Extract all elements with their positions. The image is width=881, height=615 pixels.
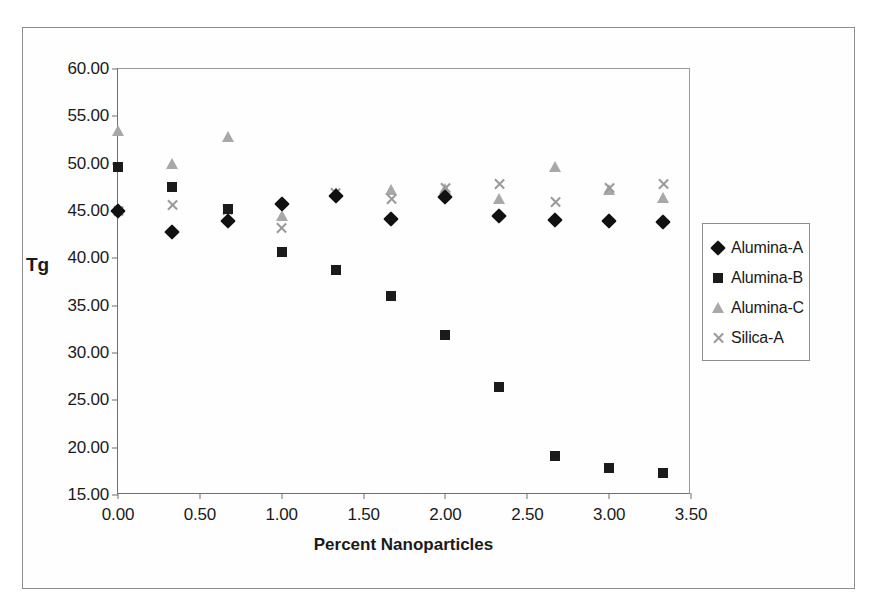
x-tick-mark xyxy=(118,493,119,499)
data-point xyxy=(658,468,668,478)
legend-item: Alumina-C xyxy=(710,293,809,323)
triangle-marker-icon xyxy=(712,302,724,313)
y-tick-label: 25.00 xyxy=(67,390,118,410)
data-point xyxy=(384,211,400,227)
data-point xyxy=(112,125,124,136)
square-marker-icon xyxy=(713,273,723,283)
legend-item: Alumina-B xyxy=(710,263,809,293)
legend-item: Silica-A xyxy=(710,323,809,353)
legend-label: Alumina-A xyxy=(731,239,803,257)
data-point xyxy=(493,178,506,191)
data-point xyxy=(493,193,505,204)
x-marker-icon xyxy=(712,332,725,345)
data-point xyxy=(331,265,341,275)
data-point xyxy=(604,463,614,473)
x-tick-mark xyxy=(691,493,692,499)
legend-marker xyxy=(710,240,726,256)
y-tick-label: 20.00 xyxy=(67,438,118,458)
x-tick-mark xyxy=(281,493,282,499)
y-tick-mark xyxy=(112,258,118,259)
legend: Alumina-AAlumina-BAlumina-CSilica-A xyxy=(702,223,810,361)
x-tick-mark xyxy=(527,493,528,499)
y-tick-mark xyxy=(112,400,118,401)
data-point xyxy=(166,199,179,212)
x-tick-mark xyxy=(199,493,200,499)
legend-marker xyxy=(710,270,726,286)
data-point xyxy=(164,224,180,240)
data-point xyxy=(494,382,504,392)
data-point xyxy=(222,131,234,142)
diamond-marker-icon xyxy=(710,240,726,256)
scatter-chart: Tg 15.0020.0025.0030.0035.0040.0045.0050… xyxy=(0,0,881,615)
y-tick-label: 60.00 xyxy=(67,59,118,79)
data-point xyxy=(113,162,123,172)
y-tick-label: 30.00 xyxy=(67,343,118,363)
data-point xyxy=(386,291,396,301)
data-point xyxy=(549,161,561,172)
legend-item: Alumina-A xyxy=(710,233,809,263)
y-axis-title: Tg xyxy=(26,254,49,276)
x-tick-mark xyxy=(445,493,446,499)
data-point xyxy=(547,213,563,229)
legend-marker xyxy=(710,300,726,316)
data-point xyxy=(166,158,178,169)
data-point xyxy=(603,182,616,195)
y-tick-mark xyxy=(112,353,118,354)
y-tick-label: 55.00 xyxy=(67,106,118,126)
data-point xyxy=(492,208,508,224)
y-tick-label: 35.00 xyxy=(67,296,118,316)
y-tick-mark xyxy=(112,69,118,70)
data-point xyxy=(385,192,398,205)
y-tick-mark xyxy=(112,447,118,448)
y-tick-label: 40.00 xyxy=(67,248,118,268)
legend-label: Alumina-C xyxy=(731,299,804,317)
y-tick-mark xyxy=(112,116,118,117)
y-tick-label: 50.00 xyxy=(67,154,118,174)
data-point xyxy=(167,182,177,192)
data-point xyxy=(601,214,617,230)
data-point xyxy=(549,195,562,208)
x-axis-title: Percent Nanoparticles xyxy=(117,535,690,555)
legend-marker xyxy=(710,330,726,346)
x-tick-mark xyxy=(609,493,610,499)
legend-label: Silica-A xyxy=(731,329,784,347)
data-point xyxy=(275,222,288,235)
legend-label: Alumina-B xyxy=(731,269,803,287)
data-point xyxy=(655,215,671,231)
data-point xyxy=(550,451,560,461)
data-point xyxy=(277,247,287,257)
y-tick-mark xyxy=(112,305,118,306)
data-point xyxy=(657,192,669,203)
plot-area: 15.0020.0025.0030.0035.0040.0045.0050.00… xyxy=(117,68,690,494)
data-point xyxy=(657,177,670,190)
x-tick-mark xyxy=(363,493,364,499)
data-point xyxy=(440,330,450,340)
